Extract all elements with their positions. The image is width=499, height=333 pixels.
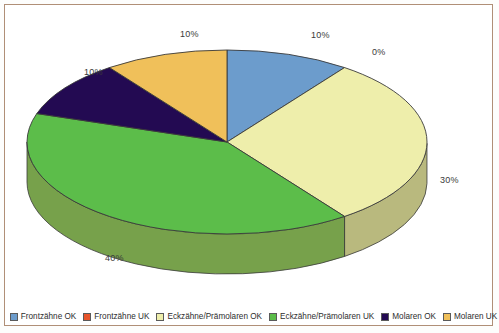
legend-item-label: Eckzähne/Prämolaren OK [167,313,262,321]
pie-label-eckzaehne-ok: 30% [440,175,459,185]
legend-swatch-icon [83,313,91,321]
legend-item-label: Frontzähne OK [21,313,77,321]
pie-chart-3d [10,10,497,298]
pie-label-molaren-ok: 10% [84,67,103,77]
legend-swatch-icon [269,313,277,321]
pie-label-molaren-uk: 10% [180,29,199,39]
pie-label-eckzaehne-uk: 40% [105,253,124,263]
legend-swatch-icon [10,313,18,321]
legend-swatch-icon [381,313,389,321]
pie-label-frontzaehne-ok: 10% [311,30,330,40]
legend-item[interactable]: Frontzähne OK [10,313,77,321]
pie-label-frontzaehne-uk: 0% [372,47,385,57]
legend-swatch-icon [156,313,164,321]
legend-item-label: Molaren OK [392,313,436,321]
screenshot-root: 10% 0% 30% 40% 10% 10% Frontzähne OK Fro… [0,0,499,333]
chart-legend: Frontzähne OK Frontzähne UK Eckzähne/Prä… [10,301,497,333]
legend-item[interactable]: Molaren UK [443,313,497,321]
legend-item[interactable]: Eckzähne/Prämolaren OK [156,313,262,321]
legend-swatch-icon [443,313,451,321]
legend-item[interactable]: Eckzähne/Prämolaren UK [269,313,374,321]
legend-item-label: Frontzähne UK [94,313,149,321]
legend-item-label: Eckzähne/Prämolaren UK [280,313,374,321]
legend-item[interactable]: Molaren OK [381,313,436,321]
pie-chart-area: 10% 0% 30% 40% 10% 10% [10,10,497,298]
legend-item-label: Molaren UK [454,313,497,321]
chart-frame: 10% 0% 30% 40% 10% 10% Frontzähne OK Fro… [4,4,493,326]
legend-item[interactable]: Frontzähne UK [83,313,149,321]
